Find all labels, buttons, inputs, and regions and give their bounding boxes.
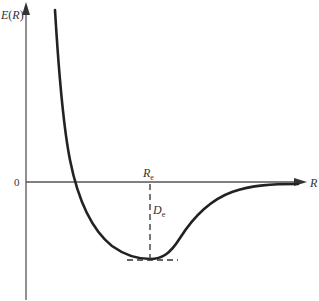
potential-energy-diagram: E(R) 0 R Re De xyxy=(0,0,319,301)
equilibrium-label: Re xyxy=(142,166,154,182)
potential-curve xyxy=(55,10,298,259)
zero-label: 0 xyxy=(14,176,20,188)
x-axis-label: R xyxy=(309,176,318,190)
dissociation-label: De xyxy=(152,203,166,219)
y-axis-label: E(R) xyxy=(0,8,24,22)
